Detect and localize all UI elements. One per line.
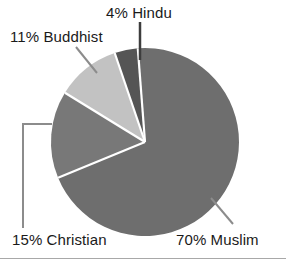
pie-label-muslim: 70% Muslim (176, 231, 259, 248)
pie-label-hindu: 4% Hindu (106, 4, 172, 21)
pie-chart-figure: 4% Hindu 11% Buddhist 15% Christian 70% … (0, 0, 286, 264)
pie-label-buddhist: 11% Buddhist (10, 28, 103, 45)
bottom-divider (0, 258, 286, 259)
pie-label-christian: 15% Christian (12, 231, 107, 248)
leader-line-muslim (211, 198, 233, 224)
leader-line-christian (23, 124, 52, 228)
